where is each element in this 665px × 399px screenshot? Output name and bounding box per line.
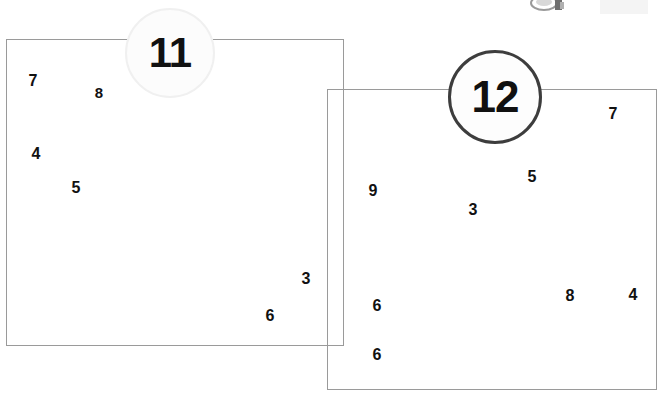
point-label: 5 [72,180,81,196]
region-label-badge-11[interactable]: 11 [125,8,215,98]
point-label: 7 [609,106,618,122]
point-label: 3 [302,271,311,287]
point-label: 6 [266,308,275,324]
point-label: 5 [528,169,537,185]
point-label: 8 [566,288,575,304]
region-label-text: 11 [149,32,192,74]
point-label: 9 [369,183,378,199]
annotation-canvas: 11 784536 12 75938466 [0,0,665,399]
point-label: 6 [373,347,382,363]
clipped-object-icon [527,0,569,14]
point-label: 3 [469,202,478,218]
region-label-badge-12[interactable]: 12 [448,50,542,144]
point-label: 7 [29,73,38,89]
point-label: 6 [373,298,382,314]
region-label-text: 12 [471,75,518,119]
point-label: 8 [95,85,103,100]
faint-smudge-mark [600,0,648,14]
point-label: 4 [32,146,41,162]
point-label: 4 [629,287,638,303]
